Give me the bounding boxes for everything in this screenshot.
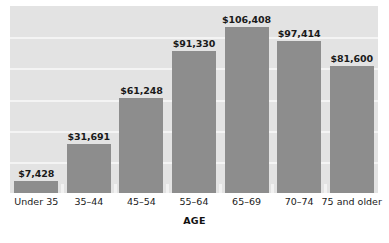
axis-tick (324, 184, 327, 193)
x-axis-title: AGE (0, 215, 389, 226)
bar (172, 51, 216, 193)
bar-value-label: $91,330 (154, 38, 234, 49)
bar-value-label: $61,248 (101, 85, 181, 96)
axis-tick (219, 184, 222, 193)
bar (225, 27, 269, 193)
bar (119, 98, 163, 193)
axis-tick (166, 184, 169, 193)
bar-value-label: $81,600 (312, 53, 389, 64)
bar-value-label: $97,414 (259, 28, 339, 39)
axis-tick (114, 184, 117, 193)
axis-tick (61, 184, 64, 193)
bar (277, 41, 321, 193)
bar-value-label: $31,691 (49, 131, 129, 142)
bar-value-label: $7,428 (0, 168, 76, 179)
bar (330, 66, 374, 193)
bar (14, 181, 58, 193)
axis-tick (271, 184, 274, 193)
bar-chart: $7,428$31,691$61,248$91,330$106,408$97,4… (0, 0, 389, 243)
bar-value-label: $106,408 (207, 14, 287, 25)
category-label: 75 and older (307, 196, 389, 207)
